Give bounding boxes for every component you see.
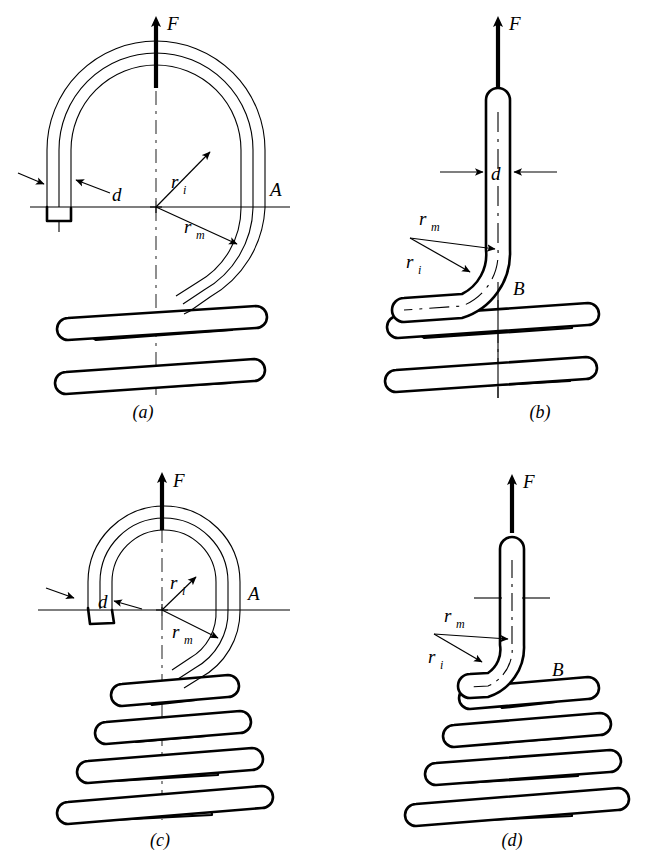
panel-a-dim-d	[18, 173, 110, 193]
panel-d-hook-body	[458, 537, 524, 698]
panel-a-section-label-A: A	[268, 179, 282, 200]
panel-a-force-label: F	[166, 13, 179, 34]
panel-d-coil-turn-2	[443, 713, 611, 747]
panel-a-label-ri-sub: i	[183, 183, 186, 197]
panel-a-dim-ri	[156, 152, 210, 207]
panel-a-label-ri: r	[171, 171, 179, 192]
panel-b-label-ri-sub: i	[418, 263, 421, 277]
panel-c-coil-turn-1	[111, 675, 239, 706]
panel-b-coil-turn-2	[385, 357, 597, 392]
panel-c-dim-d	[46, 588, 142, 609]
panel-d-label-ri-sub: i	[440, 658, 443, 672]
panel-b-dim-rm	[410, 238, 495, 249]
panel-b: F d r m r i	[385, 13, 599, 423]
panel-c-coil-turn-2	[95, 711, 251, 744]
panel-d-coil	[405, 677, 629, 826]
panel-a-hook-end	[47, 207, 71, 221]
panel-c-label-rm-sub: m	[184, 633, 193, 647]
panel-c: F A d	[38, 470, 290, 851]
panel-d-dim-rm	[434, 634, 508, 639]
panel-c-hook-inner	[112, 530, 216, 670]
panel-b-label-rm: r	[419, 208, 427, 229]
panel-c-hook-centerline	[100, 518, 228, 679]
panel-d-force-label: F	[522, 471, 535, 492]
panel-b-caption: (b)	[530, 402, 551, 423]
panel-d-caption: (d)	[502, 830, 523, 851]
panel-a-label-rm: r	[184, 216, 192, 237]
panel-c-dim-ri	[162, 577, 196, 610]
panel-c-coil	[57, 675, 273, 824]
panel-c-label-rm: r	[172, 621, 180, 642]
panel-a-coil	[55, 306, 267, 394]
panel-c-caption: (c)	[150, 830, 170, 851]
panel-d-label-rm: r	[444, 605, 452, 626]
panel-d: F r m r i	[405, 471, 629, 851]
panel-c-label-d: d	[98, 591, 108, 612]
figure-canvas: F A	[0, 0, 645, 856]
panel-a-caption: (a)	[133, 402, 154, 423]
panel-c-hook-outer	[88, 506, 240, 688]
panel-c-coil-turn-3	[77, 748, 263, 783]
panel-d-hook	[458, 537, 524, 698]
panel-c-force-label: F	[172, 470, 185, 491]
spring-hook-figure: F A	[0, 0, 645, 856]
panel-b-section-label-B: B	[513, 278, 525, 299]
panel-a-coil-turn-2	[55, 359, 265, 394]
panel-d-label-rm-sub: m	[456, 617, 465, 631]
panel-b-hook-body	[392, 88, 510, 322]
panel-b-label-d: d	[491, 163, 501, 184]
panel-c-label-ri: r	[170, 572, 178, 593]
panel-d-label-ri: r	[428, 646, 436, 667]
panel-b-hook	[392, 88, 510, 322]
panel-d-coil-turn-4	[405, 788, 629, 826]
panel-c-section-label-A: A	[246, 583, 260, 604]
panel-d-section-label-B: B	[552, 659, 564, 680]
panel-a: F A	[18, 13, 290, 423]
panel-a-coil-turn-1	[57, 306, 267, 340]
panel-b-force-label: F	[508, 13, 521, 34]
panel-d-coil-turn-3	[425, 750, 621, 785]
panel-c-hook	[88, 506, 240, 688]
panel-b-label-rm-sub: m	[431, 220, 440, 234]
panel-a-label-rm-sub: m	[196, 228, 205, 242]
panel-c-label-ri-sub: i	[182, 584, 185, 598]
panel-a-label-d: d	[112, 184, 122, 205]
panel-b-label-ri: r	[406, 251, 414, 272]
